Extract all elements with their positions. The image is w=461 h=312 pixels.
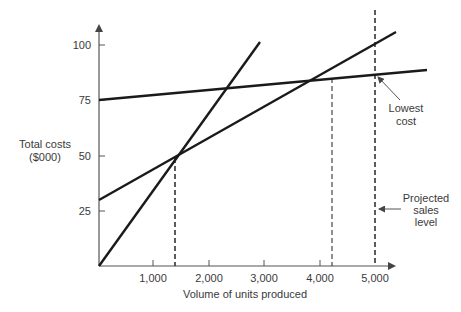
x-ticks: 1,000 2,000 3,000 4,000 5,000 [139,260,389,284]
annotation-lowest-cost: Lowest cost [378,77,423,127]
cost-volume-chart: 100 75 50 25 1,000 2,000 3,000 4,000 5,0… [0,0,461,312]
x-tick-label-1000: 1,000 [139,272,167,284]
lowest-cost-arrow [378,77,400,100]
y-tick-label-100: 100 [73,39,91,51]
x-tick-label-3000: 3,000 [250,272,278,284]
y-tick-label-50: 50 [79,150,91,162]
x-tick-label-4000: 4,000 [306,272,334,284]
y-axis-title-line1: Total costs [19,138,71,150]
y-tick-label-75: 75 [79,94,91,106]
y-ticks: 100 75 50 25 [73,39,105,217]
y-axis-title-line2: ($000) [29,151,61,163]
projected-sales-label-line1: Projected [403,192,449,204]
cost-lines [99,32,427,266]
lowest-cost-label-line1: Lowest [389,102,424,114]
annotation-projected-sales: Projected sales level [379,192,449,228]
x-axis-title: Volume of units produced [183,288,307,300]
cost-line-b [99,32,396,200]
lowest-cost-label-line2: cost [396,115,416,127]
reference-lines [175,10,375,266]
x-tick-label-2000: 2,000 [195,272,223,284]
projected-sales-label-line2: sales [413,204,439,216]
y-tick-label-25: 25 [79,205,91,217]
x-tick-label-5000: 5,000 [361,272,389,284]
projected-sales-label-line3: level [415,216,438,228]
cost-line-c [99,70,427,100]
